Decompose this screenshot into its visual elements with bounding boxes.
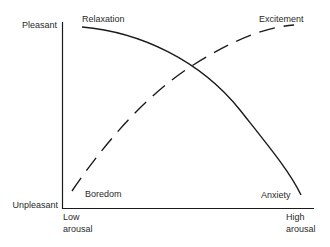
x-axis-high-label-line1: High — [286, 212, 305, 222]
diagram-svg: Pleasant Unpleasant Relaxation Anxiety B… — [0, 0, 330, 247]
y-axis-bottom-label: Unpleasant — [12, 200, 58, 210]
x-axis-low-label-line2: arousal — [63, 224, 93, 234]
anxiety-label: Anxiety — [261, 190, 291, 200]
boredom-excitement-curve — [72, 25, 294, 191]
boredom-label: Boredom — [85, 189, 122, 199]
relaxation-label: Relaxation — [82, 14, 125, 24]
x-axis-high-label-line2: arousal — [286, 224, 316, 234]
arousal-pleasantness-diagram: Pleasant Unpleasant Relaxation Anxiety B… — [0, 0, 330, 247]
x-axis-low-label-line1: Low — [63, 212, 80, 222]
relaxation-anxiety-curve — [82, 27, 301, 195]
excitement-label: Excitement — [259, 14, 304, 24]
y-axis-top-label: Pleasant — [22, 20, 58, 30]
